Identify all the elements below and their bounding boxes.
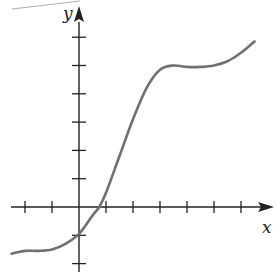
function-curve bbox=[12, 41, 255, 253]
x-axis bbox=[11, 201, 274, 213]
y-axis-label: y bbox=[63, 3, 73, 23]
chart-canvas bbox=[0, 0, 276, 277]
x-axis-label: x bbox=[262, 217, 272, 237]
